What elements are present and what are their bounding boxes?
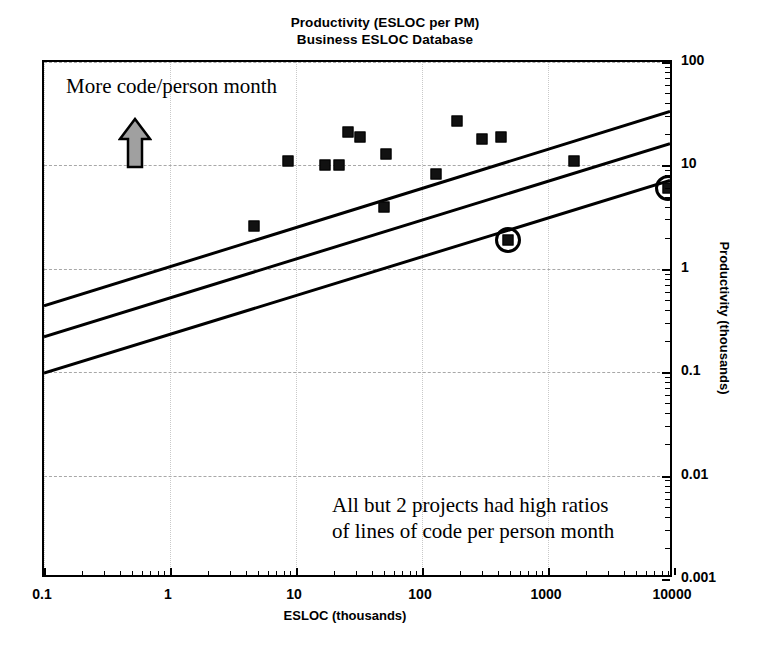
y-tick-label: 1: [681, 259, 689, 275]
x-axis-tick: [416, 571, 417, 575]
y-axis-tick: [662, 372, 670, 374]
x-axis-tick: [460, 571, 461, 575]
y-tick-label: 0.001: [681, 569, 716, 585]
y-axis-tick: [665, 323, 670, 324]
data-point-marker: [379, 201, 390, 212]
y-axis-tick: [665, 85, 670, 86]
x-axis-tick: [296, 568, 298, 575]
x-tick-label: 10: [286, 586, 302, 602]
annotation-more-code: More code/person month: [66, 74, 277, 99]
data-point-marker: [381, 148, 392, 159]
x-axis-tick: [164, 571, 165, 575]
x-axis-tick: [44, 568, 46, 575]
y-axis-tick: [665, 274, 670, 275]
y-axis-tick: [665, 382, 670, 383]
y-axis-tick: [665, 548, 670, 549]
x-tick-label: 100: [408, 586, 431, 602]
data-point-marker: [452, 115, 463, 126]
x-axis-tick: [356, 571, 357, 575]
data-point-marker: [334, 160, 345, 171]
data-point-marker: [248, 220, 259, 231]
data-point-marker: [477, 134, 488, 145]
y-axis-tick: [665, 285, 670, 286]
y-axis-tick: [665, 499, 670, 500]
x-axis-tick: [586, 571, 587, 575]
arrow-up-icon: [118, 117, 152, 169]
y-axis-tick: [665, 486, 670, 487]
x-axis-tick: [668, 571, 669, 575]
y-axis-tick: [665, 72, 670, 73]
y-axis-tick: [665, 507, 670, 508]
y-axis-tick: [665, 480, 670, 481]
data-point-marker: [568, 156, 579, 167]
y-axis-tick: [665, 93, 670, 94]
x-axis-tick: [624, 571, 625, 575]
y-axis-tick: [665, 197, 670, 198]
x-axis-tick: [542, 571, 543, 575]
y-axis-tick: [665, 134, 670, 135]
x-tick-label: 1: [164, 586, 172, 602]
y-axis-tick: [665, 175, 670, 176]
x-axis-tick: [410, 571, 411, 575]
y-axis-tick: [665, 530, 670, 531]
x-axis-tick: [290, 571, 291, 575]
y-axis-tick: [665, 78, 670, 79]
y-axis-tick: [662, 476, 670, 478]
y-axis-tick: [665, 292, 670, 293]
y-axis-tick: [665, 492, 670, 493]
y-axis-tick: [665, 413, 670, 414]
y-axis-title: Productivity (thousands): [717, 241, 732, 394]
x-axis-tick: [654, 571, 655, 575]
x-axis-tick: [150, 571, 151, 575]
x-axis-title: ESLOC (thousands): [0, 608, 690, 623]
x-tick-label: 0.1: [32, 586, 51, 602]
y-axis-tick: [665, 219, 670, 220]
x-axis-tick: [208, 571, 209, 575]
y-axis-tick: [665, 377, 670, 378]
y-axis-tick: [665, 116, 670, 117]
x-axis-tick: [608, 571, 609, 575]
x-axis-tick: [482, 571, 483, 575]
x-axis-tick: [334, 571, 335, 575]
y-axis-tick: [665, 300, 670, 301]
y-tick-label: 0.1: [681, 362, 700, 378]
plot-area: More code/person month All but 2 project…: [42, 60, 672, 577]
y-axis-tick: [665, 395, 670, 396]
x-axis-tick: [372, 571, 373, 575]
y-axis-tick: [665, 341, 670, 342]
x-axis-tick: [384, 571, 385, 575]
y-axis-tick: [662, 269, 670, 271]
y-axis-tick: [662, 165, 670, 167]
data-point-marker: [283, 156, 294, 167]
x-axis-tick: [394, 571, 395, 575]
x-axis-tick: [520, 571, 521, 575]
x-axis-tick: [636, 571, 637, 575]
x-axis-tick: [230, 571, 231, 575]
annotation-summary-line-1: All but 2 projects had high ratios: [332, 492, 614, 518]
y-axis-tick: [665, 279, 670, 280]
annotation-summary-line-2: of lines of code per person month: [332, 518, 614, 544]
y-axis-tick: [665, 238, 670, 239]
x-axis-tick: [246, 571, 247, 575]
x-axis-tick: [646, 571, 647, 575]
y-axis-tick: [665, 403, 670, 404]
data-point-marker: [495, 131, 506, 142]
chart-title-line-1: Productivity (ESLOC per PM): [0, 14, 770, 31]
x-axis-tick: [258, 571, 259, 575]
x-axis-tick: [402, 571, 403, 575]
chart-title-line-2: Business ESLOC Database: [0, 31, 770, 48]
x-axis-tick: [498, 571, 499, 575]
x-axis-tick: [158, 571, 159, 575]
x-axis-tick: [170, 568, 172, 575]
x-axis-tick: [662, 571, 663, 575]
data-point-marker: [343, 127, 354, 138]
y-axis-tick: [665, 67, 670, 68]
x-axis-tick: [120, 571, 121, 575]
y-axis-tick: [665, 388, 670, 389]
y-axis-tick: [665, 170, 670, 171]
y-axis-tick: [665, 310, 670, 311]
y-tick-label: 100: [681, 52, 704, 68]
y-axis-tick: [662, 579, 670, 581]
y-axis-tick: [665, 426, 670, 427]
y-axis-tick: [665, 188, 670, 189]
